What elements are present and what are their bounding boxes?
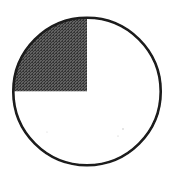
fraction-circle-figure: Circle divided into four equal quarters …	[0, 0, 175, 173]
fraction-circle-svg	[0, 0, 175, 173]
speckle	[122, 128, 123, 129]
speckle	[117, 135, 118, 136]
speckle	[46, 131, 47, 132]
